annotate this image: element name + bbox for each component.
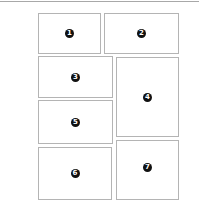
number-badge-7: 7 xyxy=(143,163,152,172)
number-badge-1: 1 xyxy=(65,29,74,38)
panel-2: 2 xyxy=(104,13,179,54)
panel-3: 3 xyxy=(38,56,113,98)
panel-7: 7 xyxy=(116,140,179,200)
number-badge-2: 2 xyxy=(137,29,146,38)
number-badge-4: 4 xyxy=(143,93,152,102)
panel-4: 4 xyxy=(116,57,179,137)
number-badge-3: 3 xyxy=(71,73,80,82)
top-rule xyxy=(0,1,199,2)
panel-6: 6 xyxy=(38,147,112,200)
number-badge-5: 5 xyxy=(71,118,80,127)
number-badge-6: 6 xyxy=(71,169,80,178)
panel-5: 5 xyxy=(38,100,113,144)
panel-1: 1 xyxy=(38,13,101,54)
